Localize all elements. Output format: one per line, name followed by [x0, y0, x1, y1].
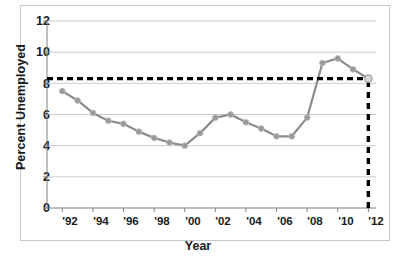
- data-point-2007: [289, 133, 295, 139]
- data-point-2010: [335, 56, 341, 62]
- unemployment-line-chart: Percent Unemployed Year 12 10 8 6 4 2 0 …: [0, 0, 396, 257]
- data-line: [62, 58, 368, 145]
- data-point-2000: [182, 143, 188, 149]
- data-point-2001: [197, 130, 203, 136]
- data-point-2002: [212, 115, 218, 121]
- data-point-2006: [274, 133, 280, 139]
- axis-lines: [43, 21, 376, 212]
- data-point-1998: [151, 135, 157, 141]
- data-point-2008: [304, 115, 310, 121]
- data-point-2004: [243, 119, 249, 125]
- reference-lines: [47, 75, 372, 208]
- data-point-1993: [75, 98, 81, 104]
- data-point-1992: [59, 88, 65, 94]
- data-point-1999: [167, 140, 173, 146]
- data-point-1996: [121, 121, 127, 127]
- data-point-2009: [320, 60, 326, 66]
- plot-area: [0, 0, 396, 257]
- data-point-2011: [350, 66, 356, 72]
- data-point-1997: [136, 129, 142, 135]
- data-point-1995: [105, 118, 111, 124]
- data-point-1994: [90, 110, 96, 116]
- data-point-2003: [228, 112, 234, 118]
- series-line-percent-unemployed: [62, 58, 368, 145]
- gridlines: [47, 21, 376, 177]
- endpoint-marker: [365, 75, 372, 82]
- data-point-2005: [258, 126, 264, 132]
